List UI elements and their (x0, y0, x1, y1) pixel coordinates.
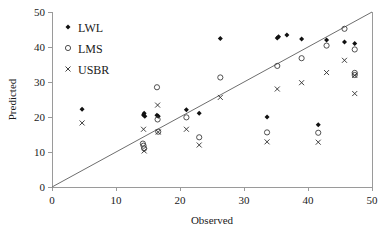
identity-reference-line (52, 12, 372, 187)
data-point-lms (184, 115, 189, 120)
scatter-plot-figure: 0102030405001020304050ObservedPredictedL… (0, 0, 392, 242)
data-point-usbr (218, 95, 223, 100)
y-tick-label: 30 (34, 76, 46, 88)
x-tick-label: 10 (111, 194, 123, 206)
legend-label-lms: LMS (78, 42, 103, 56)
data-point-lwl (352, 41, 357, 46)
data-point-usbr (141, 127, 146, 132)
data-point-usbr (80, 120, 85, 125)
data-point-usbr (299, 80, 304, 85)
data-point-lwl (284, 33, 289, 38)
x-tick-label: 50 (367, 194, 379, 206)
data-point-lms (299, 56, 304, 61)
x-tick-label: 40 (303, 194, 315, 206)
legend-marker-lms (65, 45, 70, 50)
y-tick-label: 50 (34, 6, 46, 18)
data-point-lwl (184, 107, 189, 112)
data-point-usbr (316, 140, 321, 145)
x-tick-label: 30 (239, 194, 251, 206)
data-point-lwl (265, 115, 270, 120)
data-point-lms (352, 47, 357, 52)
y-tick-label: 0 (40, 181, 46, 193)
data-point-usbr (155, 103, 160, 108)
data-point-usbr (184, 127, 189, 132)
legend-marker-lwl (66, 25, 71, 30)
series-lms (140, 26, 357, 151)
legend-label-usbr: USBR (78, 63, 109, 77)
x-tick-label: 20 (175, 194, 187, 206)
data-point-usbr (275, 87, 280, 92)
y-tick-label: 20 (34, 111, 46, 123)
data-point-lwl (80, 107, 85, 112)
data-point-usbr (197, 143, 202, 148)
data-point-lms (324, 43, 329, 48)
legend-label-lwl: LWL (78, 21, 103, 35)
data-point-lms (264, 130, 269, 135)
x-tick-label: 0 (49, 194, 55, 206)
legend: LWLLMSUSBR (65, 21, 109, 77)
data-point-usbr (352, 91, 357, 96)
series-usbr (80, 58, 358, 154)
data-point-usbr (342, 58, 347, 63)
data-point-usbr (324, 70, 329, 75)
data-point-lms (316, 130, 321, 135)
x-axis-title: Observed (191, 214, 234, 226)
data-point-lwl (342, 40, 347, 45)
chart-canvas: 0102030405001020304050ObservedPredictedL… (0, 0, 392, 242)
series-lwl (80, 33, 358, 128)
data-point-usbr (156, 130, 161, 135)
data-point-lms (154, 85, 159, 90)
data-point-lwl (218, 36, 223, 41)
data-point-usbr (265, 139, 270, 144)
data-point-lwl (316, 122, 321, 127)
y-tick-label: 10 (34, 146, 46, 158)
y-axis-title: Predicted (6, 78, 18, 120)
y-tick-label: 40 (34, 41, 46, 53)
legend-marker-usbr (66, 67, 71, 72)
data-point-lms (218, 75, 223, 80)
data-point-lms (197, 135, 202, 140)
data-point-lwl (299, 36, 304, 41)
data-point-lwl (197, 111, 202, 116)
